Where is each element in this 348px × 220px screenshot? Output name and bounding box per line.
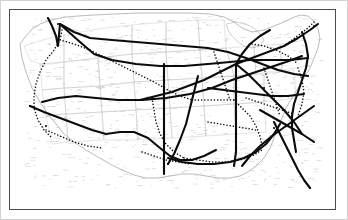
place-label-mark: [38, 30, 43, 31]
place-label-mark: [159, 181, 162, 182]
station-dot: [60, 45, 61, 46]
place-label-mark: [109, 128, 112, 129]
place-label-mark: [264, 172, 267, 173]
place-label-mark: [290, 180, 294, 181]
place-label-mark: [63, 170, 68, 171]
place-label-mark: [53, 69, 56, 70]
place-label-mark: [46, 76, 50, 77]
place-label-mark: [309, 138, 314, 139]
station-dot: [132, 84, 133, 85]
station-dot: [43, 113, 44, 114]
station-dot: [118, 130, 119, 131]
place-label-mark: [312, 154, 315, 155]
station-dot: [205, 76, 206, 77]
place-label-mark: [117, 164, 119, 165]
place-label-mark: [69, 181, 71, 182]
place-label-mark: [38, 50, 42, 51]
place-label-mark: [68, 58, 72, 59]
place-label-mark: [62, 155, 66, 156]
place-label-mark: [261, 140, 265, 141]
place-label-mark: [106, 185, 109, 186]
station-dot: [276, 167, 277, 168]
place-label-mark: [203, 131, 208, 132]
place-label-mark: [204, 127, 206, 128]
place-label-mark: [170, 20, 175, 21]
place-label-mark: [197, 135, 202, 136]
place-label-mark: [73, 157, 76, 158]
station-dot: [115, 130, 116, 131]
place-label-mark: [176, 87, 179, 88]
place-label-mark: [83, 60, 85, 61]
station-dot: [285, 89, 286, 90]
place-label-mark: [174, 188, 179, 189]
place-label-mark: [67, 154, 72, 155]
place-label-mark: [318, 39, 323, 40]
place-label-mark: [140, 23, 145, 24]
place-label-mark: [105, 142, 109, 143]
station-dot: [130, 175, 131, 176]
place-label-mark: [116, 102, 120, 103]
place-label-mark: [314, 169, 319, 170]
place-label-mark: [30, 71, 35, 72]
place-label-mark: [238, 95, 240, 96]
place-label-mark: [233, 22, 237, 23]
place-label-mark: [265, 123, 268, 124]
place-label-mark: [291, 82, 295, 83]
place-label-mark: [254, 167, 257, 168]
place-label-mark: [279, 35, 282, 36]
place-label-mark: [157, 104, 160, 105]
place-label-mark: [283, 135, 288, 136]
place-label-mark: [59, 78, 63, 79]
place-label-mark: [316, 104, 321, 105]
place-label-mark: [141, 117, 143, 118]
station-dot: [58, 102, 59, 103]
place-label-mark: [87, 44, 90, 45]
place-label-mark: [257, 136, 259, 137]
place-label-mark: [86, 117, 89, 118]
place-label-mark: [303, 19, 309, 20]
station-dot: [196, 21, 197, 22]
place-label-mark: [299, 51, 305, 52]
station-dot: [50, 147, 51, 148]
place-label-mark: [284, 78, 286, 79]
place-label-mark: [139, 185, 143, 186]
place-label-mark: [126, 140, 128, 141]
place-label-mark: [68, 157, 71, 158]
place-label-mark: [196, 179, 198, 180]
place-label-mark: [158, 108, 162, 109]
place-label-mark: [40, 65, 45, 66]
place-label-mark: [215, 181, 220, 182]
place-label-mark: [226, 39, 230, 40]
place-label-mark: [28, 138, 31, 139]
station-dot: [97, 176, 98, 177]
station-dot: [115, 111, 116, 112]
station-dot: [53, 106, 54, 107]
place-label-mark: [51, 18, 55, 19]
station-dot: [238, 76, 239, 77]
place-label-mark: [40, 117, 43, 118]
place-label-mark: [41, 176, 45, 177]
station-dot: [194, 52, 195, 53]
place-label-mark: [32, 26, 38, 27]
station-dot: [30, 62, 31, 63]
place-label-mark: [208, 17, 212, 18]
station-dot: [137, 181, 138, 182]
station-dot: [138, 86, 139, 87]
place-label-mark: [152, 30, 154, 31]
station-dot: [226, 133, 227, 134]
station-dot: [110, 102, 111, 103]
place-label-mark: [99, 80, 104, 81]
place-label-mark: [240, 149, 242, 150]
place-label-mark: [170, 147, 174, 148]
place-label-mark: [293, 50, 296, 51]
place-label-mark: [27, 163, 30, 164]
place-label-mark: [115, 87, 120, 88]
place-label-mark: [151, 58, 153, 59]
hub-gulf-terminal: [167, 163, 169, 165]
place-label-mark: [176, 53, 181, 54]
place-label-mark: [32, 34, 35, 35]
place-label-mark: [121, 36, 126, 37]
place-label-mark: [82, 176, 85, 177]
place-label-mark: [156, 153, 159, 154]
place-label-mark: [69, 18, 74, 19]
